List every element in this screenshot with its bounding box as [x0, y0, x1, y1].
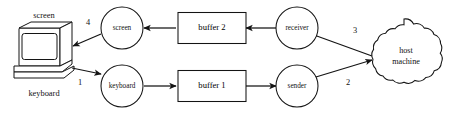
node-sender-label: sender: [288, 82, 307, 90]
terminal-keyboard-label: keyboard: [28, 89, 60, 98]
connector-screen-to-terminal: [73, 34, 101, 46]
step-label-1: 1: [78, 78, 82, 87]
step-label-2: 2: [346, 78, 350, 87]
terminal-screen-label: screen: [33, 11, 55, 20]
step-label-4: 4: [86, 18, 91, 27]
node-receiver-label: receiver: [285, 24, 309, 32]
connector-terminal-to-keyboard: [72, 68, 101, 74]
node-buffer-one-label: buffer 1: [198, 80, 225, 90]
terminal-illustration: [14, 22, 74, 78]
node-receiver-circle: receiver: [276, 7, 318, 49]
step-label-3: 3: [353, 26, 357, 35]
terminal-io-flow-diagram: screen keyboard receiver sender buffer 2…: [0, 0, 451, 115]
node-host-machine-cloud: host machine: [372, 19, 442, 83]
node-buffer-two-label: buffer 2: [198, 22, 225, 32]
node-keyboard-circle: keyboard: [101, 65, 143, 107]
node-buffer-two: buffer 2: [178, 13, 246, 44]
node-keyboard-circle-label: keyboard: [109, 82, 136, 90]
node-buffer-one: buffer 1: [178, 71, 246, 102]
node-host-machine-label-line2: machine: [392, 57, 420, 66]
node-screen-circle: screen: [101, 7, 143, 49]
node-screen-circle-label: screen: [113, 24, 132, 32]
node-sender-circle: sender: [276, 65, 318, 107]
diagram-canvas: screen keyboard receiver sender buffer 2…: [0, 0, 451, 115]
node-host-machine-label-line1: host: [399, 46, 413, 55]
